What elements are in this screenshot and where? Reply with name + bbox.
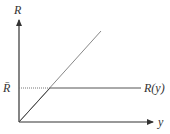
horizontal-axis-label: y bbox=[158, 116, 163, 128]
vertical-axis-label: R bbox=[14, 4, 21, 16]
curve-label: R(y) bbox=[144, 82, 165, 94]
level-label-rbar: R̄ bbox=[3, 82, 10, 94]
diagram-canvas bbox=[0, 0, 170, 134]
diagonal-lower-segment bbox=[19, 88, 50, 122]
